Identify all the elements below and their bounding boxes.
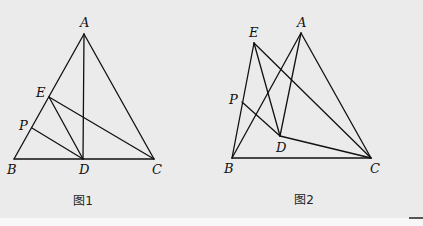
segment-AC (301, 33, 371, 158)
segment-AD (83, 34, 84, 159)
point-label-A: A (79, 15, 89, 30)
point-label-E: E (35, 85, 46, 100)
fig2-group: ABCDEP图2 (223, 15, 380, 207)
fig1-caption: 图1 (73, 194, 93, 208)
point-label-B: B (223, 161, 234, 176)
segment-PD (32, 128, 83, 159)
point-label-E: E (248, 25, 259, 40)
page-edge-mark (409, 217, 423, 219)
fig1-group: ABCDEP图1 (6, 15, 162, 208)
point-label-P: P (18, 118, 28, 133)
point-label-D: D (275, 140, 287, 155)
segment-AC (84, 34, 154, 159)
fig2-caption: 图2 (294, 193, 314, 207)
geometry-figures: ABCDEP图1ABCDEP图2 (0, 0, 423, 226)
point-label-P: P (228, 92, 238, 107)
segment-DC (280, 136, 371, 158)
point-label-A: A (296, 15, 306, 30)
point-label-C: C (370, 161, 380, 176)
point-label-B: B (6, 162, 17, 177)
segment-EC (49, 97, 154, 159)
point-label-D: D (78, 162, 90, 177)
segment-EC (254, 43, 371, 158)
segment-AD (280, 33, 301, 136)
segment-AB (232, 33, 301, 158)
point-label-C: C (152, 162, 162, 177)
segment-ED (254, 43, 280, 136)
